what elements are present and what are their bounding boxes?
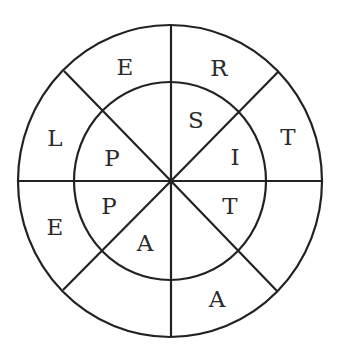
inner-letter-left-upper: P <box>104 145 119 171</box>
outer-letter-top-right: R <box>210 55 228 81</box>
inner-letter-top-right: S <box>188 107 204 133</box>
outer-letter-top-left: E <box>117 54 134 80</box>
outer-letter-bottom-right: A <box>208 286 226 312</box>
outer-letter-left-lower: E <box>47 214 64 240</box>
word-wheel-diagram: E R T A E L S I T A P P <box>0 0 342 356</box>
outer-letter-right-upper: T <box>280 124 296 150</box>
outer-letter-left-upper: L <box>47 125 62 151</box>
inner-letter-right-upper: I <box>230 144 239 170</box>
diagonal-divider-lower-left <box>63 181 171 290</box>
inner-letter-bottom-left: A <box>136 230 154 256</box>
diagonal-divider-upper-right <box>171 72 278 181</box>
inner-letter-right-lower: T <box>222 193 238 219</box>
inner-letter-left-lower: P <box>101 193 116 219</box>
